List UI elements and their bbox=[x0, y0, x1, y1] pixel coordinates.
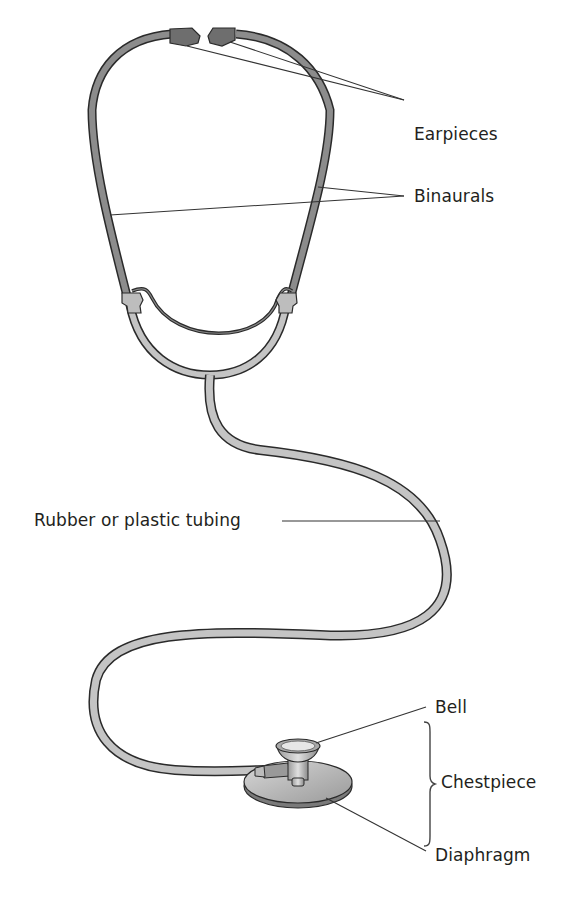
stethoscope-diagram: Earpieces Binaurals Rubber or plastic tu… bbox=[0, 0, 569, 899]
y-tubing bbox=[130, 305, 286, 375]
spring bbox=[132, 289, 292, 333]
right-binaural bbox=[236, 34, 330, 300]
left-binaural bbox=[92, 34, 172, 300]
leader-binaural-right bbox=[318, 187, 404, 196]
label-chestpiece: Chestpiece bbox=[441, 772, 536, 792]
leader-earpiece-right bbox=[230, 42, 404, 100]
left-connector bbox=[122, 293, 143, 313]
label-diaphragm: Diaphragm bbox=[435, 845, 530, 865]
leader-diaphragm bbox=[326, 798, 426, 851]
right-connector bbox=[276, 293, 297, 313]
right-earpiece bbox=[208, 28, 235, 46]
left-earpiece bbox=[170, 28, 200, 46]
chestpiece-brace bbox=[424, 722, 435, 846]
label-tubing: Rubber or plastic tubing bbox=[34, 510, 241, 530]
label-bell: Bell bbox=[435, 697, 467, 717]
leader-lines bbox=[110, 42, 440, 851]
label-earpieces: Earpieces bbox=[414, 124, 498, 144]
main-tubing bbox=[93, 375, 446, 771]
label-binaurals: Binaurals bbox=[414, 186, 494, 206]
chestpiece bbox=[244, 739, 352, 808]
leader-bell bbox=[316, 707, 426, 743]
leader-binaural-left bbox=[110, 196, 404, 215]
